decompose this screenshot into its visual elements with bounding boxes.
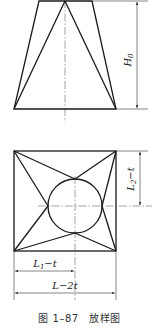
lofting-drawing: H0 L2−t L1−t L−2t bbox=[0, 0, 159, 328]
tri-bl-left bbox=[14, 206, 48, 251]
l1-label: L1−t bbox=[32, 258, 57, 271]
tri-br-bottom bbox=[75, 233, 116, 251]
figure-caption: 图 1–87 放样图 bbox=[0, 310, 159, 325]
l2-label: L2−t bbox=[125, 166, 138, 191]
elevation-view: H0 bbox=[14, 0, 148, 122]
plan-view: L2−t L1−t L−2t bbox=[14, 151, 152, 300]
elevation-triangulation-left bbox=[14, 1, 65, 109]
tri-bl-bottom bbox=[14, 233, 75, 251]
tri-br-right bbox=[102, 206, 116, 251]
h0-label: H0 bbox=[122, 53, 135, 68]
full-width-label: L−2t bbox=[51, 280, 78, 291]
elevation-triangulation-right bbox=[65, 1, 116, 109]
